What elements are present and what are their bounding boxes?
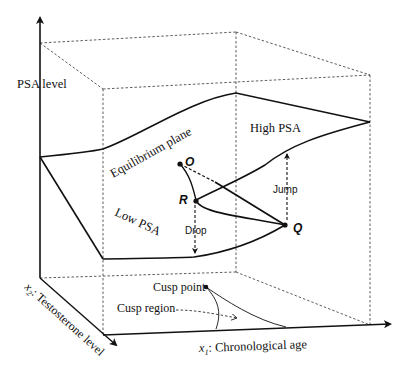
low-psa-label: Low PSA — [113, 205, 163, 238]
point-q-label: Q — [293, 221, 303, 235]
point-o-label: O — [185, 155, 195, 169]
cusp-curves — [206, 287, 286, 329]
trajectory — [177, 161, 287, 227]
cusp-catastrophe-diagram: PSA level Equilibrium plane High PSA Low… — [0, 0, 407, 366]
high-psa-label: High PSA — [250, 121, 301, 135]
point-q-marker — [282, 222, 287, 227]
cusp-region-arrow — [176, 310, 237, 318]
x1-axis — [103, 324, 390, 335]
drop-label: Drop — [185, 225, 207, 236]
x1-axis-label: x1: Chronological age — [198, 337, 308, 357]
cusp-point-label: Cusp point — [153, 280, 206, 294]
x2-axis-label: x2: Testosterone level — [20, 279, 108, 360]
jump-label: Jump — [273, 184, 298, 195]
equilibrium-plane-label: Equilibrium plane — [108, 124, 194, 180]
point-r-label: R — [179, 193, 188, 207]
point-r-marker — [193, 198, 198, 203]
cusp-region-label: Cusp region — [117, 301, 175, 315]
z-axis-label: PSA level — [17, 77, 67, 91]
point-o-marker — [177, 161, 182, 166]
